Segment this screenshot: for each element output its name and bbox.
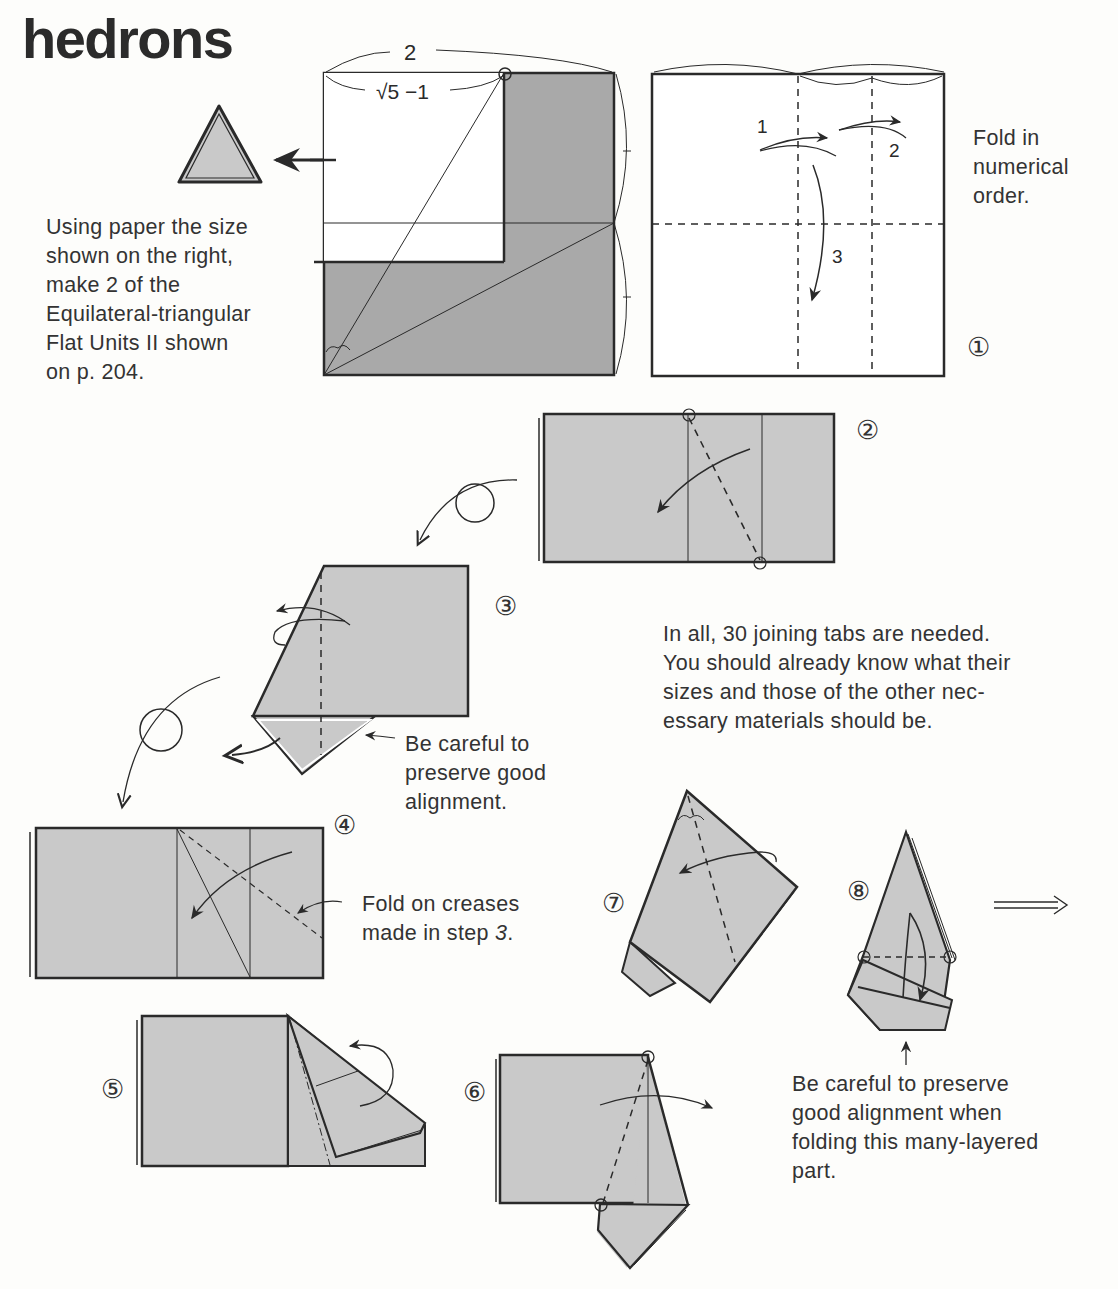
fold-label-1: 1 <box>757 116 768 138</box>
intro-line: Equilateral-triangular <box>46 300 251 329</box>
note-line: numerical <box>973 153 1069 182</box>
step-number-2: ② <box>855 418 879 442</box>
note-line: Fold in <box>973 124 1069 153</box>
step6-diagram <box>496 1051 712 1268</box>
intro-line: shown on the right, <box>46 242 251 271</box>
step-number-5: ⑤ <box>100 1077 124 1101</box>
note-line: Be careful to preserve <box>792 1070 1039 1099</box>
fold-label-2: 2 <box>889 140 900 162</box>
intro-line: Using paper the size <box>46 213 251 242</box>
step2-diagram <box>539 409 834 569</box>
step-number-6: ⑥ <box>462 1080 486 1104</box>
fold-order-note: Fold in numerical order. <box>973 124 1069 211</box>
step-number-4: ④ <box>332 813 356 837</box>
step7-diagram <box>622 791 797 1002</box>
step-number-3: ③ <box>493 594 517 618</box>
turn-over-icon-1 <box>420 480 517 540</box>
crease-note: Fold on creases made in step 3. <box>362 890 519 948</box>
paper-width-label: 2 <box>404 40 416 66</box>
next-step-arrow-icon <box>994 896 1067 914</box>
note-line: order. <box>973 182 1069 211</box>
note-line: preserve good <box>405 759 546 788</box>
triangle-unit-icon <box>179 106 338 182</box>
intro-text: Using paper the size shown on the right,… <box>46 213 251 387</box>
intro-line: make 2 of the <box>46 271 251 300</box>
joining-tabs-note: In all, 30 joining tabs are needed. You … <box>663 620 1011 736</box>
note-line: good alignment when <box>792 1099 1039 1128</box>
step8-diagram <box>848 832 1067 1065</box>
paper-size-diagram <box>310 50 631 375</box>
note-line: part. <box>792 1157 1039 1186</box>
intro-line: on p. 204. <box>46 358 251 387</box>
alignment-note: Be careful to preserve good alignment. <box>405 730 546 817</box>
note-line: You should already know what their <box>663 649 1011 678</box>
turn-over-icon-2 <box>123 677 220 802</box>
note-line: sizes and those of the other nec- <box>663 678 1011 707</box>
note-line: essary materials should be. <box>663 707 1011 736</box>
note-line: Fold on creases <box>362 890 519 919</box>
note-line: made in step 3. <box>362 919 519 948</box>
step-number-1: ① <box>966 335 990 359</box>
note-line: folding this many-layered <box>792 1128 1039 1157</box>
paper-subwidth-label: √5 −1 <box>376 80 429 104</box>
step4-diagram <box>30 828 342 978</box>
intro-line: Flat Units II shown <box>46 329 251 358</box>
step-reference: 3 <box>495 921 507 945</box>
note-line: In all, 30 joining tabs are needed. <box>663 620 1011 649</box>
step5-diagram <box>137 1016 425 1166</box>
step1-diagram <box>652 64 944 376</box>
step-number-7: ⑦ <box>601 891 625 915</box>
fold-label-3: 3 <box>832 246 843 268</box>
many-layered-note: Be careful to preserve good alignment wh… <box>792 1070 1039 1186</box>
note-line: alignment. <box>405 788 546 817</box>
step-number-8: ⑧ <box>846 879 870 903</box>
note-line: Be careful to <box>405 730 546 759</box>
